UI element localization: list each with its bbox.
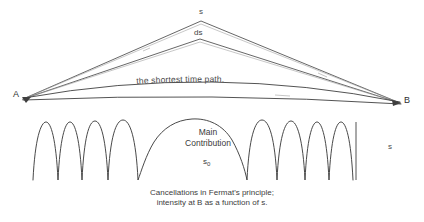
path-intermediate-2 [23, 42, 400, 103]
label-point-a: A [13, 89, 19, 99]
label-main-contribution-line2: Contribution [178, 139, 238, 149]
label-segment-ds: ds [194, 28, 202, 37]
label-s-naught: s0 [203, 157, 210, 168]
path-inner-via-ds [23, 39, 400, 103]
label-s-naught-subscript: 0 [207, 161, 210, 167]
ray-paths-group [23, 21, 401, 104]
label-wave-axis-s: s [388, 142, 392, 151]
path-tick-marks [143, 48, 327, 96]
label-apex-s: s [199, 7, 203, 16]
shortest-path-curved-label: the shortest time path. [136, 74, 224, 86]
label-main-contribution-line1: Main [178, 128, 238, 138]
label-point-b: B [404, 95, 410, 105]
path-outer-via-s [23, 21, 400, 103]
caption-line-2: intensity at B as a function of s. [0, 198, 424, 209]
path-baseline-chord [23, 97, 401, 104]
path-intermediate [23, 24, 400, 103]
shortest-path-textpath: the shortest time path. [136, 74, 224, 86]
fermat-principle-figure: the shortest time path. A B s ds Main Co… [0, 0, 424, 222]
